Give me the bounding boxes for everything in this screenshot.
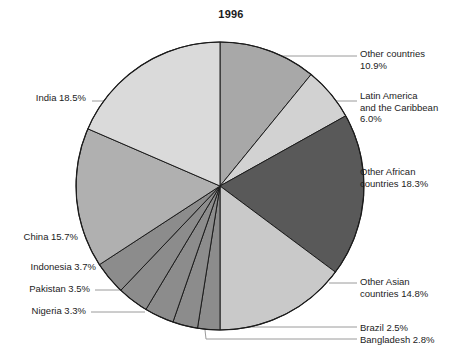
callout-other-asian: Other Asian countries 14.8% — [360, 276, 428, 299]
pie-slices-group — [76, 42, 364, 330]
callout-other-countries: Other countries 10.9% — [360, 48, 425, 71]
callout-other-african: Other African countries 18.3% — [360, 166, 428, 189]
callout-indonesia: Indonesia 3.7% — [0, 261, 96, 273]
callout-india: India 18.5% — [0, 92, 86, 104]
callout-pakistan: Pakistan 3.5% — [0, 283, 90, 295]
callout-bangladesh: Bangladesh 2.8% — [360, 334, 434, 346]
callout-latin-america: Latin America and the Caribbean 6.0% — [360, 90, 438, 125]
callout-brazil: Brazil 2.5% — [360, 322, 408, 334]
callout-nigeria: Nigeria 3.3% — [0, 305, 86, 317]
pie-chart-figure: 1996 Other countries 10.9% Latin America… — [0, 0, 462, 353]
leader-line — [205, 330, 357, 339]
callout-china: China 15.7% — [0, 231, 78, 243]
